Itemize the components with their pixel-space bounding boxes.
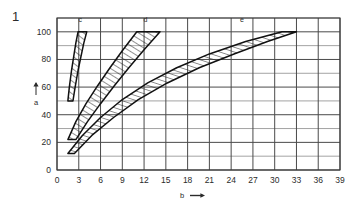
x-axis-label: b xyxy=(180,191,184,200)
x-tick-label: 0 xyxy=(55,175,60,185)
y-axis-label: a xyxy=(34,98,39,107)
x-tick-label: 30 xyxy=(270,175,280,185)
x-tick-label: 15 xyxy=(161,175,171,185)
chart-plot: 036912151821242730333639 020406080100 cd… xyxy=(0,0,363,211)
figure-container: 1 036912151821242730333639 020406080100 … xyxy=(0,0,363,211)
x-axis-tick-labels: 036912151821242730333639 xyxy=(55,175,345,185)
band-label-c: c xyxy=(78,16,82,23)
y-tick-label: 100 xyxy=(37,27,51,37)
x-tick-label: 33 xyxy=(292,175,302,185)
band-label-e: e xyxy=(240,16,244,23)
x-tick-label: 27 xyxy=(248,175,258,185)
x-axis-title-group: b xyxy=(180,191,205,200)
y-axis-tick-labels: 020406080100 xyxy=(37,27,51,175)
y-tick-label: 20 xyxy=(42,137,52,147)
x-tick-label: 9 xyxy=(120,175,125,185)
y-tick-label: 80 xyxy=(42,54,52,64)
y-tick-label: 60 xyxy=(42,82,52,92)
x-tick-label: 24 xyxy=(226,175,236,185)
x-tick-label: 39 xyxy=(335,175,345,185)
y-tick-label: 0 xyxy=(46,165,51,175)
x-tick-label: 12 xyxy=(139,175,149,185)
x-tick-label: 36 xyxy=(313,175,323,185)
x-tick-label: 6 xyxy=(98,175,103,185)
x-tick-label: 3 xyxy=(76,175,81,185)
x-tick-label: 21 xyxy=(205,175,215,185)
y-tick-label: 40 xyxy=(42,110,52,120)
x-axis-arrow-head xyxy=(200,193,205,198)
y-axis-title-group: a xyxy=(33,82,39,107)
x-tick-label: 18 xyxy=(183,175,193,185)
y-axis-arrow-head xyxy=(33,82,38,86)
band-label-d: d xyxy=(144,16,148,23)
